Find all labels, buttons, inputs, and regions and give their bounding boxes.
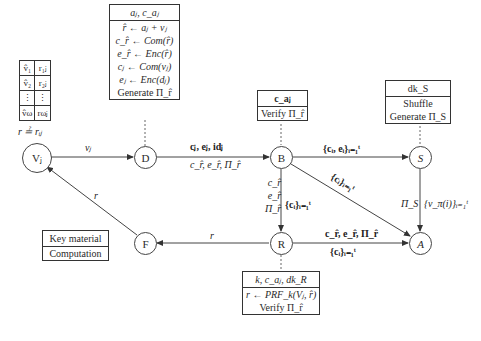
table-cell: v̂₂ [20,76,35,91]
box-row: eⱼ ← Enc(dⱼ) [110,73,179,86]
table-cell: r₁ⱼ [35,61,51,76]
legend-row: Computation [43,247,108,260]
edge-label-r-a-bottom: {cᵢ}ᵢ₌₁ᵗ [330,246,356,257]
box-row: Verify Π_r̂ [258,107,307,120]
node-auditor: A [409,232,432,255]
node-board: B [270,146,293,169]
shuffler-box: dk_S Shuffle Generate Π_S [385,80,451,124]
node-forwarder: F [134,232,157,255]
legend-box: Key material Computation [42,230,109,261]
edge-label-vj-d: vⱼ [85,142,91,153]
edge-label-s-a-right: {v_π(i)}ᵢ₌₁ᵗ [424,198,468,209]
box-row: Generate Π_S [386,110,450,123]
device-box-header: aⱼ, c_aⱼ [110,5,179,21]
table-cell: r₂ⱼ [35,76,51,91]
edge-label-r-a-top: c_r̂, e_r̂, Π_r̂ [325,228,378,239]
device-box: aⱼ, c_aⱼ r̂ ← aⱼ + vⱼ c_r̂ ← Com(r̂) e_r… [109,4,180,100]
node-voter: Vⱼ [22,143,52,173]
table-cell: ⋮ [20,91,35,106]
edge-label-d-b-bottom: c_r̂, e_r̂, Π_r̂ [190,159,241,170]
box-row: c_r̂ ← Com(r̂) [110,34,179,47]
edge-f-vj [47,167,137,235]
table-cell: ⋮ [35,91,51,106]
node-shuffler: S [409,146,432,169]
legend-header: Key material [43,231,108,247]
return-box-header: k, c_aⱼ, dk_R [243,272,319,288]
edge-label-f-vj: r [94,190,98,201]
box-row: Generate Π_r̂ [110,86,179,99]
box-row: r̂ ← aⱼ + vⱼ [110,21,179,34]
board-box-header: c_aⱼ [258,91,307,107]
table-cell: v̂₁ [20,61,35,76]
table-cell: v̂ω [20,106,35,121]
box-row: Verify Π_r̂ [243,301,319,314]
return-box: k, c_aⱼ, dk_R r ← PRF_k(Vⱼ, r̂) Verify Π… [242,271,320,315]
edge-label-b-r-left: c_r̂e_r̂Π_r̂ [265,176,281,215]
edge-label-d-b-top: cⱼ, eⱼ, idⱼ [190,141,223,152]
box-row: r ← PRF_k(Vⱼ, r̂) [243,288,319,301]
edge-label-b-s: {cᵢ, eᵢ}ᵢ₌₁ᵗ [323,143,360,154]
diagram-edges [0,0,481,341]
edge-label-r-f: r [210,230,214,241]
box-row: cⱼ ← Com(vⱼ) [110,60,179,73]
edge-label-s-a-left: Π_S [401,198,418,209]
shuffler-box-header: dk_S [386,81,450,97]
board-box: c_aⱼ Verify Π_r̂ [257,90,308,121]
node-device: D [134,146,157,169]
table-cell: rωⱼ [35,106,51,121]
return-code-check: r ≟ rᵢⱼ [18,126,42,137]
box-row: e_r̂ ← Enc(r̂) [110,47,179,60]
voter-code-table: v̂₁r₁ⱼ v̂₂r₂ⱼ ⋮⋮ v̂ωrωⱼ [19,60,51,121]
edge-label-b-r-right: {cᵢ}ᵢ₌₁ᵗ [285,199,311,210]
box-row: Shuffle [386,97,450,110]
node-return: R [270,232,293,255]
